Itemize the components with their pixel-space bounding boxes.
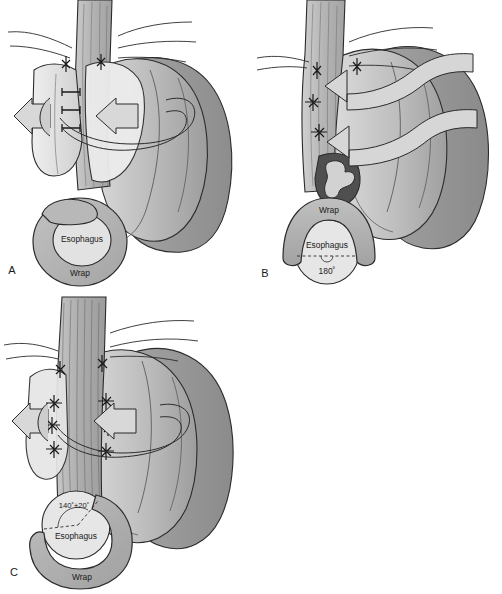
inset-wrap-label: Wrap	[70, 268, 90, 278]
fundoplication-figure: Esophagus Wrap A	[0, 0, 502, 594]
inset-wrap-label: Wrap	[72, 572, 92, 582]
inset-esophagus-label: Esophagus	[55, 531, 97, 541]
inset-angle-label: 180˚	[319, 266, 336, 276]
panel-c: 140˚±20˚ Esophagus Wrap C	[0, 297, 251, 594]
inset-esophagus-label: Esophagus	[61, 234, 103, 244]
panel-c-letter: C	[10, 566, 18, 578]
wrap-overlap-tail	[42, 199, 97, 224]
inset-wrap-label: Wrap	[319, 205, 339, 215]
panel-c-illustration: 140˚±20˚ Esophagus Wrap C	[0, 297, 251, 594]
inset-cross-section-c: 140˚±20˚ Esophagus Wrap	[30, 491, 133, 589]
panel-a: Esophagus Wrap A	[0, 0, 251, 297]
inset-cross-section-a: Esophagus Wrap	[33, 198, 127, 286]
inset-esophagus-label: Esophagus	[306, 240, 348, 250]
panel-b: Wrap Esophagus 180˚ B	[251, 0, 502, 297]
inset-angle-label: 140˚±20˚	[59, 501, 89, 510]
panel-a-letter: A	[8, 264, 16, 276]
panel-b-letter: B	[261, 267, 268, 279]
panel-b-illustration: Wrap Esophagus 180˚ B	[251, 0, 502, 297]
panel-a-illustration: Esophagus Wrap A	[0, 0, 251, 297]
